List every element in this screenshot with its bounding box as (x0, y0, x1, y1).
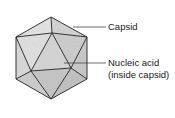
nucleic-acid-label: Nucleic acid (108, 57, 159, 68)
capsid-label: Capsid (108, 21, 138, 32)
nucleic-acid-sublabel: (inside capsid) (108, 69, 169, 80)
